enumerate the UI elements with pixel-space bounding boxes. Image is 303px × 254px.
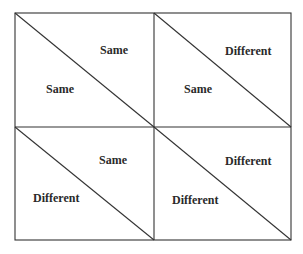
cell-bottom-right-lower-label: Different — [172, 193, 218, 207]
cell-top-left-upper-label: Same — [100, 43, 129, 57]
cell-bottom-left-lower-label: Different — [33, 191, 79, 205]
cell-bottom-left-upper-label: Same — [99, 153, 128, 167]
diagonal-bottom-left — [15, 127, 154, 240]
diagonal-top-left — [15, 13, 154, 127]
cell-top-right-upper-label: Different — [225, 44, 271, 58]
two-by-two-diagram: Same Same Different Same Same Different … — [0, 0, 303, 254]
cell-top-right-lower-label: Same — [184, 82, 213, 96]
cell-top-left-lower-label: Same — [46, 82, 75, 96]
diagonal-bottom-right — [154, 127, 291, 240]
cell-bottom-right-upper-label: Different — [225, 154, 271, 168]
diagonal-top-right — [154, 13, 291, 127]
